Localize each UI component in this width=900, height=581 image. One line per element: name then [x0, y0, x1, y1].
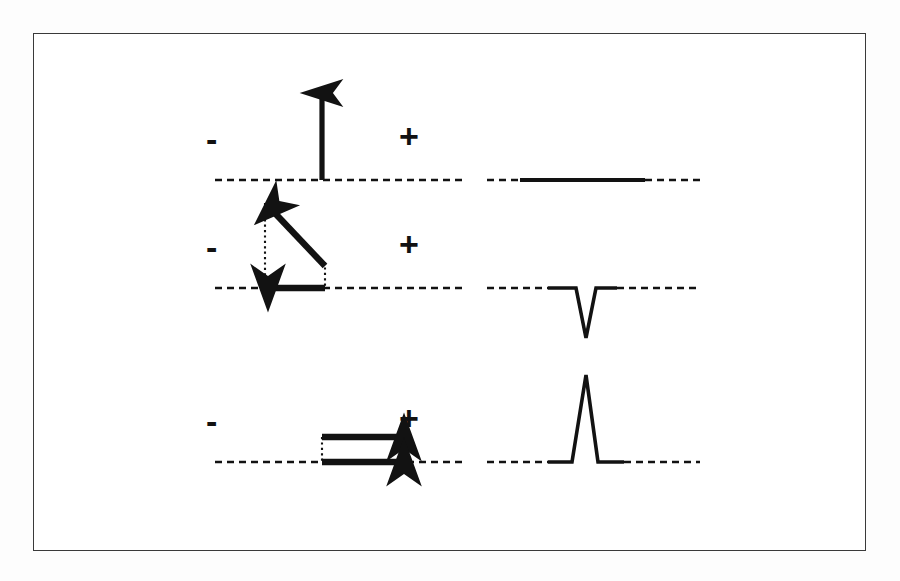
oblique-vector-arrow: [271, 209, 325, 266]
row-positive: [215, 375, 700, 462]
figure-page: ECG vector direction and resulting defle…: [0, 0, 900, 581]
negative-electrode-label-row1: -: [206, 122, 217, 156]
row-perpendicular: [215, 93, 700, 180]
positive-electrode-label-row3: +: [399, 401, 419, 435]
row-negative: [215, 203, 700, 338]
positive-electrode-label-row2: +: [399, 227, 419, 261]
negative-deflection-trace: [548, 288, 617, 338]
positive-electrode-label-row1: +: [399, 119, 419, 153]
ecg-vector-diagram: [0, 0, 900, 581]
negative-electrode-label-row3: -: [206, 404, 217, 438]
negative-electrode-label-row2: -: [206, 230, 217, 264]
positive-deflection-trace: [548, 375, 624, 462]
